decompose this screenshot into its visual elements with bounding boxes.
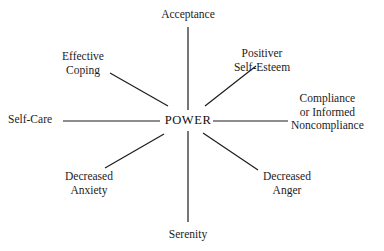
node-decreased-anxiety-line-1: Decreased [65,170,113,184]
hub-label-power: POWER [165,113,212,128]
node-acceptance: Acceptance [161,8,215,22]
node-effective-coping-line-2: Coping [62,64,104,78]
spoke-line-effective-coping [110,73,168,106]
node-positive-self-esteem-line-1: Positiver [234,47,290,61]
node-decreased-anxiety: Decreased Anxiety [65,170,113,197]
node-decreased-anger: Decreased Anger [263,170,311,197]
node-acceptance-line-1: Acceptance [161,8,215,22]
node-decreased-anger-line-2: Anger [263,184,311,198]
node-self-care-line-1: Self-Care [8,113,52,127]
node-positive-self-esteem: Positiver Self-Esteem [234,47,290,74]
node-compliance-line-2: or Informed [291,105,364,119]
node-compliance-line-3: Noncompliance [291,119,364,133]
node-positive-self-esteem-line-2: Self-Esteem [234,61,290,75]
node-serenity: Serenity [169,228,207,242]
node-compliance-or-informed-noncompliance: Compliance or Informed Noncompliance [291,92,364,133]
node-serenity-line-1: Serenity [169,228,207,242]
spoke-line-decreased-anger [203,133,258,170]
power-spoke-diagram: POWER Acceptance Positiver Self-Esteem C… [0,0,384,251]
node-self-care: Self-Care [8,113,52,127]
node-effective-coping: Effective Coping [62,50,104,77]
node-decreased-anger-line-1: Decreased [263,170,311,184]
spoke-line-decreased-anxiety [105,134,164,168]
node-effective-coping-line-1: Effective [62,50,104,64]
node-decreased-anxiety-line-2: Anxiety [65,184,113,198]
node-compliance-line-1: Compliance [291,92,364,106]
hub-label-text: POWER [165,113,212,127]
